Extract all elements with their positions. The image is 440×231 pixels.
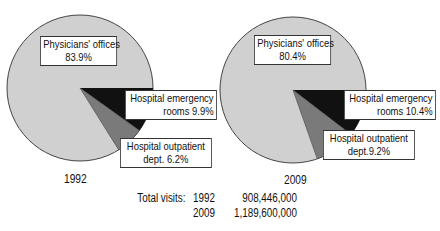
total-visits-label: Total visits: (128, 191, 185, 206)
label-emergency-1992: Hospital emergency rooms 9.9% (125, 90, 217, 120)
total-visits-table: Total visits:1992908,446,000 20091,189,6… (128, 191, 297, 221)
label-physicians-1992: Physicians' offices 83.9% (40, 36, 117, 66)
label-physicians-2009: Physicians' offices 80.4% (254, 35, 331, 65)
year-label-1992: 1992 (64, 172, 87, 186)
label-outpatient-1992: Hospital outpatient dept. 6.2% (120, 138, 212, 168)
label-emergency-2009: Hospital emergency rooms 10.4% (344, 90, 436, 120)
label-outpatient-2009: Hospital outpatient dept.9.2% (323, 130, 415, 160)
year-label-2009: 2009 (284, 173, 307, 187)
